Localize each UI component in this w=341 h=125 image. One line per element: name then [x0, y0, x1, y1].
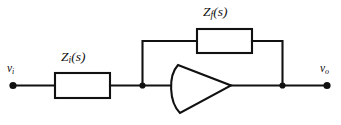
summing-junction-node: [139, 82, 145, 88]
input-terminal-label: vi: [7, 63, 14, 76]
input-impedance-symbol: Z: [61, 49, 69, 64]
input-terminal-dot: [9, 82, 16, 89]
output-terminal-label: vo: [320, 63, 329, 76]
wire-feedback-right-branch: [252, 41, 283, 86]
circuit-schematic-canvas: [0, 0, 341, 125]
feedback-impedance-symbol: Z: [203, 4, 211, 19]
output-junction-node: [279, 82, 285, 88]
feedback-impedance-label: Zf(s): [203, 5, 227, 21]
input-impedance-argument: (s): [71, 49, 85, 64]
circuit-diagram: Zi(s) Zf(s) vi vo: [0, 0, 341, 125]
output-terminal-dot: [323, 82, 330, 89]
output-voltage-subscript: o: [325, 67, 329, 76]
feedback-impedance-argument: (s): [213, 4, 227, 19]
operational-amplifier-symbol: [171, 65, 231, 113]
input-impedance-block: [55, 73, 110, 98]
feedback-impedance-block: [197, 29, 252, 53]
input-voltage-subscript: i: [12, 67, 14, 76]
input-impedance-label: Zi(s): [61, 50, 85, 66]
